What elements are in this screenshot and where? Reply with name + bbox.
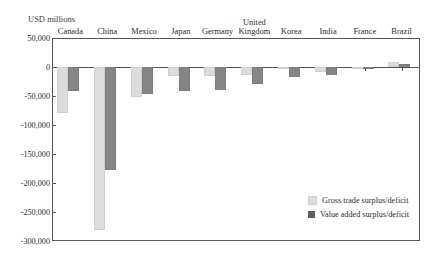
bar-value-added [142,67,153,94]
bar-group [52,38,89,241]
bar-group [126,38,163,241]
bar-group [273,38,310,241]
x-axis-category-label: India [319,27,336,36]
legend-item: Gross trade surplus/deficit [308,196,409,205]
legend-label: Gross trade surplus/deficit [322,196,408,205]
bar-gross [94,67,105,230]
bar-gross [278,67,289,69]
x-axis-category-label: Mexico [131,27,157,36]
bar-gross [388,62,399,67]
y-axis-tick-label: -100,000 [21,121,50,130]
legend-label: Value added surplus/deficit [320,210,409,219]
bar-gross [168,67,179,76]
bar-gross [57,67,68,113]
x-axis-tick-mark [402,67,403,71]
y-axis-tick-label: -250,000 [21,208,50,217]
x-axis-category-label: Korea [281,27,301,36]
x-axis-category-label: Japan [171,27,190,36]
bar-group [236,38,273,241]
bar-value-added [215,67,226,90]
x-axis-category-label: Brazil [391,27,411,36]
y-axis-tick-label: -50,000 [25,92,50,101]
y-axis-tick-label: -300,000 [21,237,50,246]
bar-value-added [68,67,79,91]
bar-value-added [399,64,410,67]
x-axis-category-label: Canada [58,27,83,36]
x-axis-category-label: Germany [202,27,233,36]
y-axis-tick-labels: 50,0000-50,000-100,000-150,000-200,000-2… [0,0,50,253]
bar-group [162,38,199,241]
legend-item: Value added surplus/deficit [308,210,409,219]
bar-value-added [326,67,337,75]
bar-group [89,38,126,241]
x-axis-category-label: UnitedKingdom [239,18,271,36]
legend-swatch-value-icon [308,211,315,218]
legend-swatch-gross-icon [308,196,317,205]
bar-gross [315,67,326,72]
bar-value-added [179,67,190,91]
x-axis-category-label: France [353,27,376,36]
x-axis-category-label: China [97,27,117,36]
bar-gross [204,67,215,76]
y-axis-tick-label: 50,000 [27,34,50,43]
bar-gross [241,67,252,75]
bar-value-added [252,67,263,84]
bar-value-added [105,67,116,170]
chart-container: USD millions 50,0000-50,000-100,000-150,… [0,0,438,253]
y-axis-tick-label: 0 [46,63,50,72]
bar-value-added [289,67,300,77]
bar-value-added [363,67,374,69]
bar-gross [352,67,363,69]
bar-gross [131,67,142,97]
chart-legend: Gross trade surplus/deficitValue added s… [308,196,409,224]
y-axis-tick-label: -150,000 [21,150,50,159]
y-axis-tick-label: -200,000 [21,179,50,188]
bar-group [199,38,236,241]
